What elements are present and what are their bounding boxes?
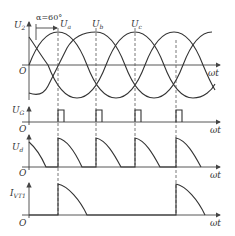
- x-axis-label: ωt: [210, 125, 221, 135]
- origin-label: O: [19, 124, 27, 134]
- y-label-ivt1: IVT1: [9, 188, 26, 199]
- phase-b-label: Ub: [92, 19, 104, 30]
- phase-a-label: Ua: [60, 19, 72, 30]
- gate-pulse-panel: UG O ωt: [12, 105, 221, 135]
- rectifier-waveform-diagram: α=60° U2 Ua Ub Uc O ωt UG O ωt Ud O ωt I…: [0, 0, 235, 236]
- y-label-ug: UG: [12, 105, 25, 116]
- supply-voltage-panel: α=60° U2 Ua Ub Uc O ωt: [14, 13, 220, 215]
- output-voltage-panel: Ud O ωt: [12, 135, 221, 180]
- phase-c-label: Uc: [131, 19, 143, 30]
- origin-label: O: [19, 66, 27, 76]
- thyristor-current-panel: IVT1 O ωt: [9, 183, 221, 228]
- y-label-ud: Ud: [12, 142, 24, 153]
- x-axis-label: ωt: [210, 218, 221, 228]
- origin-label: O: [19, 218, 27, 228]
- x-axis-label: ωt: [208, 68, 219, 78]
- gate-pulses: [58, 110, 182, 122]
- y-label-u2: U2: [14, 20, 26, 31]
- x-axis-label: ωt: [210, 170, 221, 180]
- alpha-label: α=60°: [36, 13, 62, 22]
- origin-label: O: [19, 168, 27, 178]
- output-voltage-wave: [29, 138, 201, 167]
- thyristor-current-wave: [29, 184, 205, 215]
